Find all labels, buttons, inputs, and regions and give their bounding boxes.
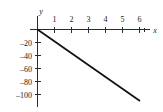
x-tick-label-4: 4	[104, 15, 108, 24]
x-tick-label-5: 5	[121, 15, 125, 24]
x-tick-label-2: 2	[70, 15, 74, 24]
y-tick-label-neg100: –100	[15, 91, 32, 100]
chart-figure: 1 2 3 4 5 6 –20 –40 –60 –80 –100 y x	[0, 0, 163, 112]
y-tick-label-neg40: –40	[19, 52, 32, 61]
y-tick-label-neg60: –60	[19, 65, 32, 74]
y-tick-label-neg80: –80	[19, 78, 32, 87]
x-axis-label: x	[152, 26, 157, 35]
x-tick-label-3: 3	[87, 15, 91, 24]
y-tick-label-neg20: –20	[19, 39, 32, 48]
y-axis-label: y	[38, 7, 43, 16]
x-tick-label-6: 6	[138, 15, 142, 24]
chart-plot-area: 1 2 3 4 5 6 –20 –40 –60 –80 –100 y x	[0, 0, 163, 112]
data-line-series-1	[38, 30, 141, 102]
x-tick-label-1: 1	[53, 15, 57, 24]
